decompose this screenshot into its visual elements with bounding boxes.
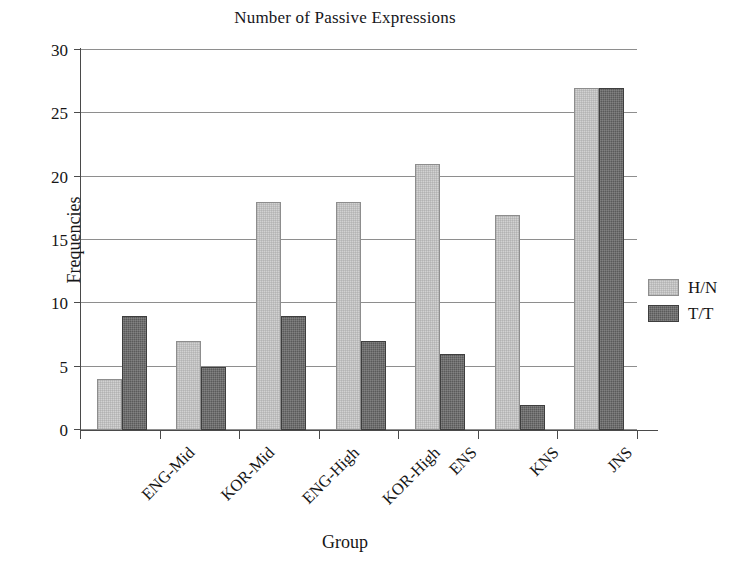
y-tick-mark-25 [74,112,81,113]
y-tick-label: 30 [22,41,68,61]
x-axis-line [80,430,658,431]
x-tick-label-eng-mid: ENG-Mid [137,443,198,504]
x-tick-mark [319,430,320,439]
bar-kor-high-tt [361,341,386,430]
plot-area: Frequencies 051015202530 [80,50,637,430]
x-axis-title: Group [0,532,690,553]
legend-item-hn[interactable]: H/N [648,276,717,299]
x-tick-label-kns: KNS [525,443,562,480]
x-tick-mark [398,430,399,439]
y-tick-label: 20 [22,168,68,188]
bar-eng-mid-hn [97,379,122,430]
bar-ens-hn [415,164,440,430]
bar-jns-hn [574,88,599,430]
bar-group-kor-high [336,50,386,430]
x-tick-mark [478,430,479,439]
x-tick-label-ens: ENS [445,443,481,479]
bar-kor-mid-hn [176,341,201,430]
x-tick-mark [239,430,240,439]
y-tick-mark-15 [74,239,81,240]
x-tick-label-jns: JNS [603,443,637,477]
y-tick-mark-30 [74,49,81,50]
bar-eng-mid-tt [122,316,147,430]
legend-label: T/T [688,304,714,324]
bar-group-ens [415,50,465,430]
x-tick-mark [160,430,161,439]
bar-kns-tt [520,405,545,430]
y-tick-label: 0 [22,421,68,441]
chart-figure: Number of Passive Expressions Frequencie… [0,0,742,571]
bar-eng-high-hn [256,202,281,430]
y-tick-mark-20 [74,176,81,177]
bar-group-jns [574,50,624,430]
x-tick-mark [557,430,558,439]
chart-title: Number of Passive Expressions [0,8,690,28]
bar-group-kns [495,50,545,430]
chart-legend: H/NT/T [648,276,717,328]
y-tick-label: 15 [22,231,68,251]
bar-jns-tt [599,88,624,430]
bar-kor-mid-tt [201,367,226,430]
y-tick-label: 5 [22,358,68,378]
bar-kns-hn [495,215,520,430]
x-tick-label-kor-high: KOR-High [378,443,444,509]
legend-swatch-hn [648,279,679,296]
y-tick-mark-10 [74,302,81,303]
x-tick-mark [80,430,81,439]
bar-group-kor-mid [176,50,226,430]
bar-kor-high-hn [336,202,361,430]
x-tick-label-eng-high: ENG-High [298,443,363,508]
bar-ens-tt [440,354,465,430]
legend-label: H/N [688,278,717,298]
legend-item-tt[interactable]: T/T [648,302,717,325]
legend-swatch-tt [648,305,679,322]
bar-eng-high-tt [281,316,306,430]
y-tick-label: 10 [22,294,68,314]
x-tick-mark [637,430,638,439]
x-tick-label-kor-mid: KOR-Mid [217,443,279,505]
y-tick-label: 25 [22,104,68,124]
bar-group-eng-mid [97,50,147,430]
bar-group-eng-high [256,50,306,430]
y-tick-mark-5 [74,366,81,367]
